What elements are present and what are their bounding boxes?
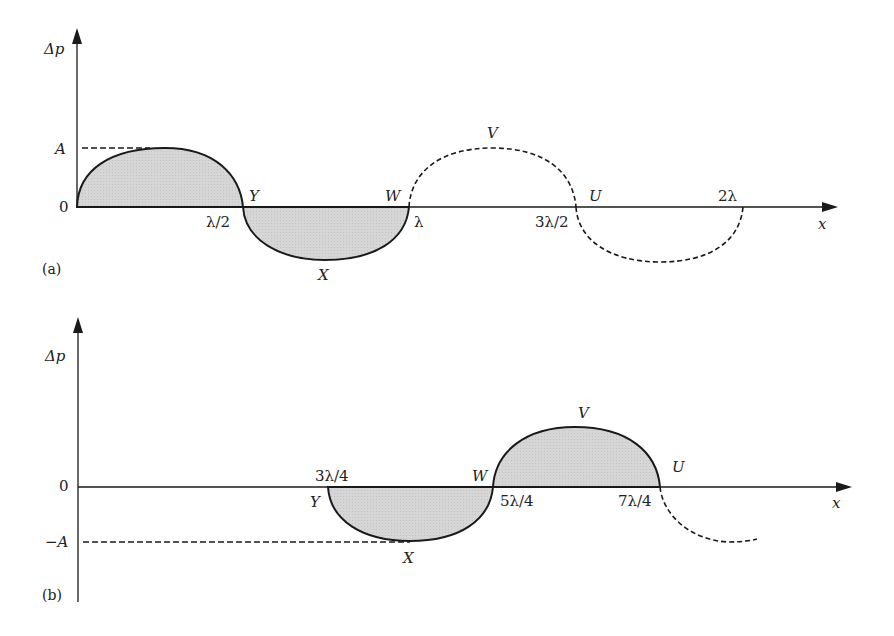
panel-a: Δp A 0 λ/2 λ 3λ/2 2λ x Y X W V U (a) [42, 28, 838, 284]
point-X-b: X [402, 549, 415, 567]
tick-lambda-a: λ [414, 213, 424, 231]
y-axis-label-b: Δp [44, 347, 66, 365]
point-U-b: U [672, 458, 686, 476]
point-U-a: U [589, 187, 603, 205]
tick-half-lambda-a: λ/2 [206, 213, 230, 231]
lobe-a-negative [243, 207, 409, 260]
point-V-a: V [487, 124, 500, 142]
tick-amplitude-a: A [53, 140, 66, 158]
x-axis-arrow-a [822, 202, 838, 212]
lobe-b-dashed-tail [660, 487, 757, 542]
point-X-a: X [317, 266, 330, 284]
point-V-b: V [578, 404, 591, 422]
point-Y-b: Y [310, 493, 322, 511]
panel-b: Δp 0 −A 3λ/4 5λ/4 7λ/4 x Y X W V U (b) [42, 317, 852, 603]
point-Y-a: Y [249, 187, 261, 205]
tick-zero-b: 0 [59, 477, 69, 495]
panel-tag-b: (b) [42, 587, 62, 603]
y-axis-arrow-a [72, 28, 82, 44]
tick-seven-quarter-lambda-b: 7λ/4 [618, 492, 652, 510]
lobe-a-positive [77, 148, 243, 207]
lobe-b-negative [328, 487, 493, 541]
tick-zero-a: 0 [59, 198, 69, 216]
tick-two-lambda-a: 2λ [718, 187, 738, 205]
lobe-b-positive [493, 427, 660, 487]
panel-tag-a: (a) [42, 261, 61, 277]
y-axis-arrow-b [73, 317, 83, 333]
x-axis-arrow-b [836, 482, 852, 492]
wave-pressure-diagram: Δp A 0 λ/2 λ 3λ/2 2λ x Y X W V U (a) Δp … [0, 0, 894, 636]
x-axis-label-b: x [832, 494, 841, 512]
tick-three-half-lambda-a: 3λ/2 [535, 213, 569, 231]
lobe-a-dashed-negative [576, 207, 743, 262]
point-W-a: W [385, 187, 402, 205]
y-axis-label-a: Δp [43, 40, 65, 58]
lobe-a-dashed-positive [409, 148, 576, 207]
tick-five-quarter-lambda-b: 5λ/4 [500, 492, 534, 510]
x-axis-label-a: x [818, 215, 827, 233]
tick-three-quarter-lambda-b: 3λ/4 [315, 467, 349, 485]
point-W-b: W [472, 467, 489, 485]
tick-neg-amplitude-b: −A [45, 533, 69, 551]
